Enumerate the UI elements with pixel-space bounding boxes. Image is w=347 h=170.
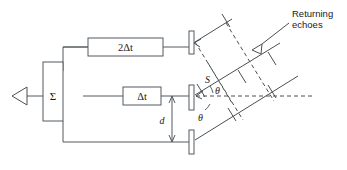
ray-from-middle-element [195,43,280,95]
transducer-top[interactable] [189,31,194,54]
ray-from-top-element [195,19,232,42]
spacing-label: d [160,115,166,126]
angle-arc-lower [205,104,210,110]
figure-canvas: Σ 2Δt Δt [0,0,347,170]
transducer-bottom[interactable] [189,130,194,154]
summer-label: Σ [50,90,56,102]
transducer-middle[interactable] [189,85,194,110]
returning-echoes-label-line1: Returning [292,8,333,19]
returning-echo-arrowhead [252,44,262,54]
angle-arc-upper [210,86,213,93]
beam-steering-diagram: Σ 2Δt Δt [0,0,347,170]
source-point-label: S [205,74,210,85]
echo-leader-line [262,23,289,44]
tick-middle-ray-1 [238,70,246,83]
wire-summer-to-top-delay [63,47,88,71]
tick-middle-ray-2 [268,52,276,65]
delay-block-2dt-label: 2Δt [118,42,133,53]
returning-echoes-label-line2: echoes [292,19,323,30]
angle-label-upper: θ [215,85,220,96]
tick-middle-ray-s [197,84,205,97]
output-signal-arrow[interactable] [12,87,27,105]
delay-block-dt-label: Δt [137,91,147,102]
angle-label-lower: θ [198,112,203,123]
wavefront-dashed-b [226,23,274,101]
